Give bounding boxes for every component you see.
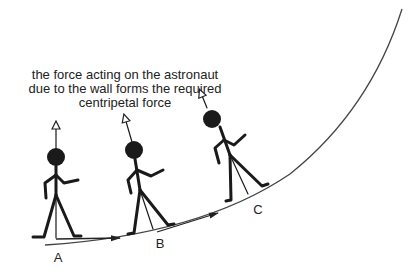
head-b [125,141,143,159]
centripetal-diagram: the force acting on the astronaut due to… [0,0,415,273]
caption-line-1: the force acting on the astronaut [32,67,219,82]
head-a [47,148,65,166]
position-label-c: C [253,202,262,217]
position-label-a: A [54,250,63,265]
astronaut-c [201,93,268,201]
position-label-b: B [156,236,165,251]
force-arrow-b [125,118,132,142]
caption-line-2: due to the wall forms the required [29,81,222,96]
velocity-arrow-a [56,238,120,239]
astronaut-b [125,118,174,234]
curved-wall [45,9,402,245]
astronaut-a [33,125,81,238]
caption-line-3: centripetal force [79,95,172,110]
head-c [203,110,221,128]
